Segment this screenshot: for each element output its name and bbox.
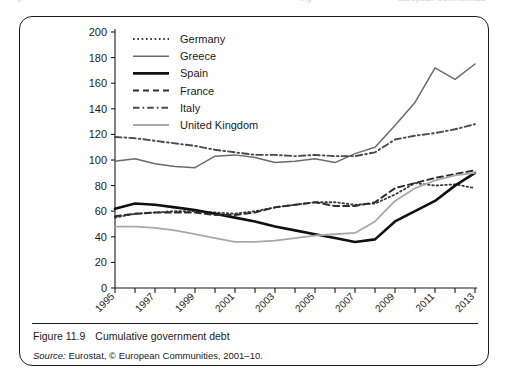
line-chart: 0204060801001201401601802001995199719992… <box>20 17 490 317</box>
legend-label-france: France <box>180 85 214 97</box>
x-axis-tick-label: 2007 <box>333 290 357 314</box>
x-axis-tick-label: 2001 <box>213 290 237 314</box>
y-axis-tick-label: 160 <box>89 77 107 89</box>
figure-box: 0204060801001201401601802001995199719992… <box>19 16 489 366</box>
y-axis-tick-label: 20 <box>95 256 107 268</box>
legend-label-spain: Spain <box>180 67 208 79</box>
y-axis-tick-label: 120 <box>89 128 107 140</box>
figure-source: Source: Eurostat, © European Communities… <box>33 350 263 361</box>
x-axis-tick-label: 2009 <box>373 290 397 314</box>
y-axis-tick-label: 200 <box>89 26 107 38</box>
page-top-bleed: p ing European Communities <box>0 0 510 12</box>
series-line-greece <box>115 64 475 168</box>
legend-label-germany: Germany <box>180 33 226 45</box>
x-axis-tick-label: 1995 <box>93 290 117 314</box>
x-axis-tick-label: 2011 <box>413 290 436 313</box>
source-text: Eurostat, © European Communities, 2001–1… <box>66 350 263 361</box>
caption-divider <box>32 323 478 324</box>
y-axis-tick-label: 80 <box>95 180 107 192</box>
legend-label-united-kingdom: United Kingdom <box>180 119 258 131</box>
page-bleed-right: European Communities <box>398 0 486 3</box>
chart-svg: 0204060801001201401601802001995199719992… <box>20 17 490 317</box>
x-axis-tick-label: 2013 <box>453 290 477 314</box>
series-line-italy <box>115 124 475 156</box>
x-axis-tick-label: 2005 <box>293 290 317 314</box>
y-axis-tick-label: 140 <box>89 103 107 115</box>
figure-caption-text: Cumulative government debt <box>95 330 229 342</box>
figure-caption: Figure 11.9Cumulative government debt <box>33 330 230 342</box>
y-axis-tick-label: 60 <box>95 205 107 217</box>
page-bleed-middle: ing <box>300 0 311 3</box>
source-label: Source: <box>33 350 66 361</box>
y-axis-tick-label: 40 <box>95 231 107 243</box>
legend-label-italy: Italy <box>180 102 201 114</box>
x-axis-tick-label: 1997 <box>133 290 157 314</box>
figure-number: Figure 11.9 <box>33 330 85 342</box>
page-bleed-left: p <box>18 0 23 3</box>
y-axis-tick-label: 180 <box>89 52 107 64</box>
x-axis-tick-label: 1999 <box>173 290 197 314</box>
legend-label-greece: Greece <box>180 50 216 62</box>
y-axis-tick-label: 100 <box>89 154 107 166</box>
x-axis-tick-label: 2003 <box>253 290 277 314</box>
